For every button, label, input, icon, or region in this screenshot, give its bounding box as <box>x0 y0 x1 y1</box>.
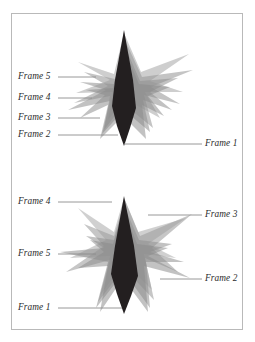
label-lower-frame-5: Frame 5 <box>18 249 50 258</box>
label-upper-frame-2: Frame 2 <box>18 130 50 139</box>
upper-diagram-shapes <box>68 30 193 146</box>
shapes-svg <box>0 0 255 342</box>
label-upper-frame-5: Frame 5 <box>18 72 50 81</box>
label-upper-frame-3: Frame 3 <box>18 113 50 122</box>
label-lower-frame-2: Frame 2 <box>205 274 237 283</box>
label-upper-frame-1: Frame 1 <box>205 139 237 148</box>
label-lower-frame-1: Frame 1 <box>18 303 50 312</box>
upper-frame1-polygon <box>112 30 136 146</box>
lower-frame1-polygon <box>111 196 138 314</box>
lower-diagram-shapes <box>60 196 192 314</box>
label-lower-frame-3: Frame 3 <box>205 210 237 219</box>
label-upper-frame-4: Frame 4 <box>18 93 50 102</box>
label-lower-frame-4: Frame 4 <box>18 197 50 206</box>
figure-canvas <box>0 0 255 342</box>
figure-page: Frame 5 Frame 4 Frame 3 Frame 2 Frame 1 … <box>0 0 255 342</box>
